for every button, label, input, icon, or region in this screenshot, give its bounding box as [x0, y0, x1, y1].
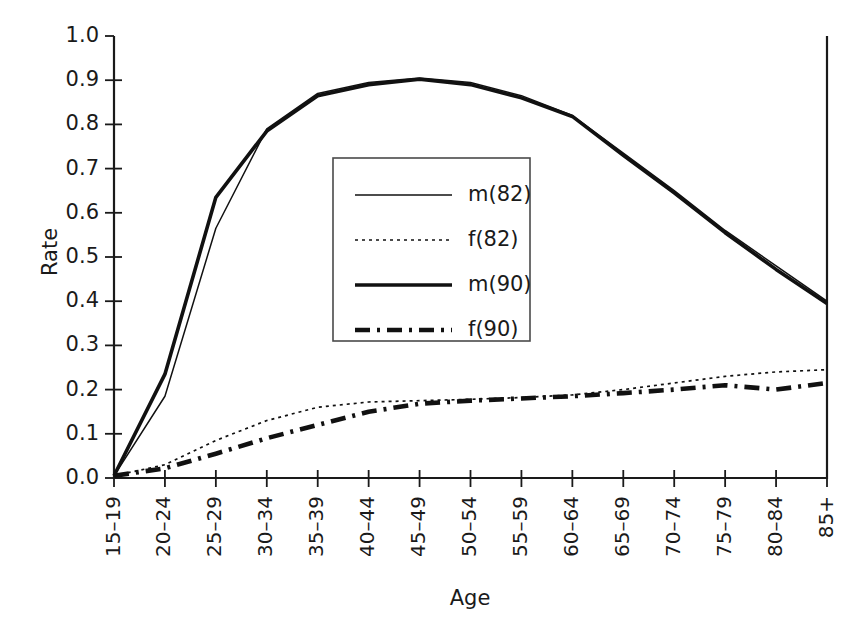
x-tick-label: 50–54 — [457, 496, 481, 557]
y-axis-title: Rate — [38, 228, 62, 276]
series-line-f90 — [114, 383, 827, 476]
x-tick-label: 55–59 — [508, 496, 532, 557]
y-tick-label: 0.7 — [66, 156, 99, 180]
x-tick-label: 85+ — [814, 496, 838, 538]
x-tick-label: 35–39 — [304, 496, 328, 557]
y-tick-label: 0.5 — [66, 244, 99, 268]
y-tick-label: 0.2 — [66, 377, 99, 401]
y-tick-label: 0.0 — [66, 465, 99, 489]
y-tick-label: 0.9 — [66, 67, 99, 91]
x-tick-label: 80–84 — [763, 496, 787, 557]
line-chart: 0.00.10.20.30.40.50.60.70.80.91.0 15–192… — [0, 0, 857, 629]
legend-label-m82: m(82) — [468, 182, 532, 206]
chart-figure: 0.00.10.20.30.40.50.60.70.80.91.0 15–192… — [0, 0, 857, 629]
x-tick-label: 65–69 — [610, 496, 634, 557]
y-tick-label: 0.8 — [66, 111, 99, 135]
x-tick-label: 15–19 — [101, 496, 125, 557]
x-axis-tick-labels: 15–1920–2425–2930–3435–3940–4445–4950–54… — [101, 496, 838, 557]
y-tick-label: 0.4 — [66, 288, 99, 312]
y-tick-label: 0.6 — [66, 200, 99, 224]
legend-label-m90: m(90) — [468, 272, 532, 296]
y-axis-tick-labels: 0.00.10.20.30.40.50.60.70.80.91.0 — [66, 23, 99, 489]
x-tick-label: 30–34 — [253, 496, 277, 557]
x-tick-label: 75–79 — [712, 496, 736, 557]
x-tick-label: 20–24 — [151, 496, 175, 557]
x-tick-label: 40–44 — [355, 496, 379, 557]
x-tick-label: 70–74 — [661, 496, 685, 557]
y-tick-label: 1.0 — [66, 23, 99, 47]
x-axis-title: Age — [450, 586, 491, 610]
x-tick-label: 60–64 — [559, 496, 583, 557]
y-tick-label: 0.1 — [66, 421, 99, 445]
x-tick-label: 45–49 — [406, 496, 430, 557]
x-tick-label: 25–29 — [202, 496, 226, 557]
chart-legend: m(82)f(82)m(90)f(90) — [333, 158, 532, 341]
legend-label-f90: f(90) — [468, 317, 519, 341]
y-tick-label: 0.3 — [66, 332, 99, 356]
legend-label-f82: f(82) — [468, 227, 519, 251]
